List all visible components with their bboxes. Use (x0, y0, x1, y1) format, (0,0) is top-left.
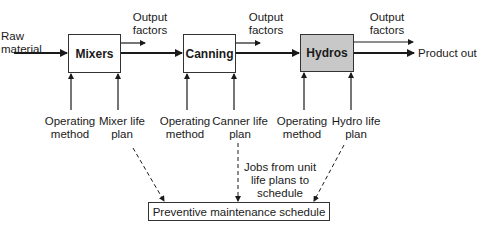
canner-life-plan: Canner life plan (212, 115, 268, 141)
hydros-output-factors: Output factors (365, 11, 409, 37)
mixers-operating-method: Operating method (40, 115, 100, 141)
canning-output-factors: Output factors (244, 11, 288, 37)
mixers-output-factors: Output factors (128, 11, 172, 37)
canning-label: Canning (186, 47, 234, 61)
diagram-canvas: Raw material Mixers Canning Hydros Outpu… (0, 0, 486, 233)
hydros-operating-method: Operating method (272, 115, 332, 141)
mixers-box: Mixers (68, 34, 121, 73)
raw-material-label: Raw material (1, 30, 61, 56)
mixers-label: Mixers (75, 47, 113, 61)
canning-operating-method: Operating method (155, 115, 215, 141)
product-out-label: Product out (418, 47, 477, 60)
canning-box: Canning (183, 34, 236, 73)
jobs-note: Jobs from unit life plans to schedule (243, 161, 317, 200)
hydro-life-plan: Hydro life plan (330, 115, 382, 141)
mixer-life-plan: Mixer life plan (96, 115, 148, 141)
hydros-label: Hydros (306, 46, 347, 60)
preventive-maintenance-schedule-box: Preventive maintenance schedule (148, 202, 330, 221)
hydros-box: Hydros (300, 34, 354, 72)
schedule-label: Preventive maintenance schedule (153, 206, 326, 218)
